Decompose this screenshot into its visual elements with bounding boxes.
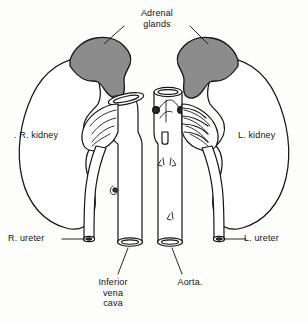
label-right-kidney: . R. kidney [14,130,76,141]
label-adrenal-glands: Adrenal glands [124,8,190,29]
label-left-kidney: L. kidney [238,130,300,141]
label-inferior-vena-cava: Inferior vena cava [86,277,140,309]
anatomy-illustration [0,0,308,322]
ivc-distal-opening-inner [122,240,139,244]
left-ureter-opening-inner [216,238,222,240]
label-aorta: Aorta. [166,277,214,288]
leader-ivc [118,248,128,274]
label-right-ureter: R. ureter [8,233,66,244]
aorta-superior-mesenteric-stub [162,132,168,144]
ivc-tributary-ostium [113,188,117,192]
right-ureter [84,146,106,238]
label-left-ureter: L. ureter [244,233,302,244]
right-ureter-opening-inner [86,238,92,240]
kidney-anatomy-diagram: Adrenal glands . R. kidney L. kidney R. … [0,0,308,322]
aorta-proximal-opening-inner [158,90,178,95]
left-ureter [202,146,224,238]
aorta-distal-opening-inner [162,240,179,244]
leader-aorta [172,248,182,274]
